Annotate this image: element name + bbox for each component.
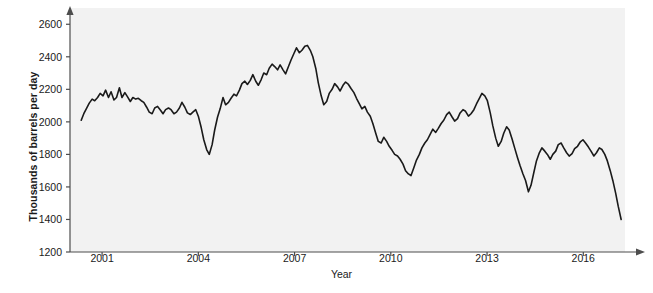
x-axis-tick-marks (102, 252, 583, 256)
plot-background (70, 8, 625, 252)
x-axis-title-label: Year (331, 268, 352, 280)
line-chart: Thousands of barrels per day 12001400160… (0, 0, 653, 293)
x-axis-title: Year (0, 268, 653, 280)
plot-area (0, 0, 653, 293)
x-axis-arrow-icon (636, 248, 645, 255)
